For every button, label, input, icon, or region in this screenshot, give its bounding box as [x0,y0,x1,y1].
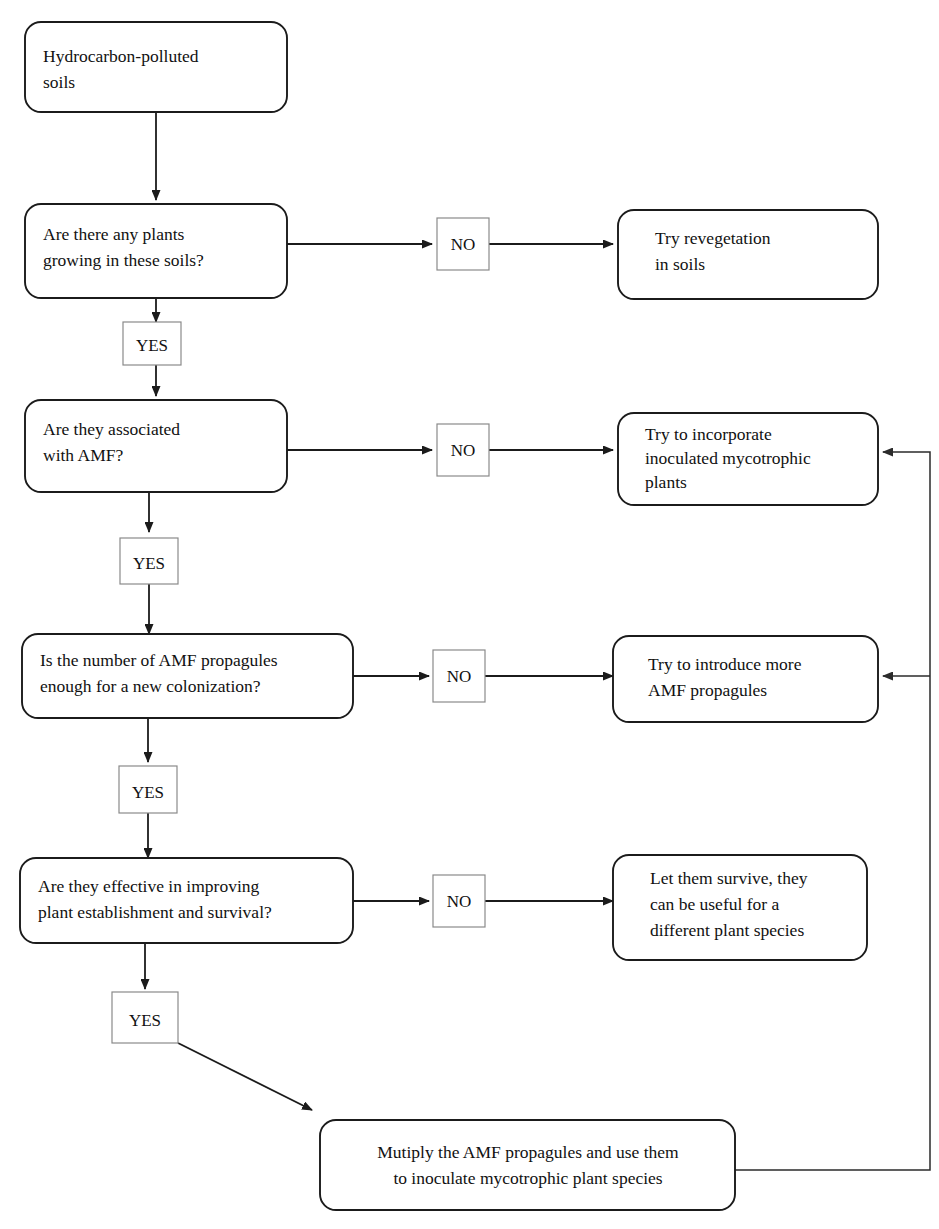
node-q4-line1: Are they effective in improving [38,876,260,896]
no2-label: NO [451,441,476,460]
node-start-shape[interactable] [25,22,287,112]
node-q2-line1: Are they associated [43,419,180,439]
edge-label-no-3: NO [433,650,485,702]
no3-label: NO [447,667,472,686]
node-a2-line3: plants [645,472,687,492]
node-action-incorporate-mycotrophic-plants[interactable]: Try to incorporate inoculated mycotrophi… [618,413,878,505]
flowchart-svg: Hydrocarbon-polluted soils Are there any… [0,0,939,1229]
node-a4-line3: different plant species [650,920,804,940]
no1-label: NO [451,235,476,254]
node-a2-line2: inoculated mycotrophic [645,448,811,468]
yes3-label: YES [132,783,164,802]
node-q3-line1: Is the number of AMF propagules [40,650,278,670]
node-question-effective-improving[interactable]: Are they effective in improving plant es… [20,858,353,943]
node-q4-shape[interactable] [20,858,353,943]
yes1-label: YES [136,336,168,355]
node-start-line1: Hydrocarbon-polluted [43,46,199,66]
node-a3-shape[interactable] [613,636,878,722]
node-q1-line1: Are there any plants [43,224,185,244]
node-a3-line2: AMF propagules [648,680,767,700]
node-a1-line2: in soils [655,254,705,274]
node-a3-line1: Try to introduce more [648,654,802,674]
yes2-label: YES [133,554,165,573]
node-action-try-revegetation[interactable]: Try revegetation in soils [618,210,878,299]
flowchart-canvas: Hydrocarbon-polluted soils Are there any… [0,0,939,1229]
node-q1-line2: growing in these soils? [43,250,204,270]
yes4-label: YES [129,1011,161,1030]
edge-label-yes-3: YES [119,766,177,813]
node-q3-line2: enough for a new colonization? [40,676,261,696]
node-a4-line1: Let them survive, they [650,868,808,888]
node-final-multiply-propagules[interactable]: Mutiply the AMF propagules and use them … [320,1120,735,1210]
node-final-line2: to inoculate mycotrophic plant species [393,1168,662,1188]
node-a4-line2: can be useful for a [650,894,779,914]
node-a1-line1: Try revegetation [655,228,771,248]
edge-label-yes-2: YES [120,538,178,584]
node-question-associated-amf[interactable]: Are they associated with AMF? [25,400,287,492]
node-action-let-them-survive[interactable]: Let them survive, they can be useful for… [613,855,867,960]
node-question-propagule-number[interactable]: Is the number of AMF propagules enough f… [22,634,353,718]
no4-label: NO [447,892,472,911]
node-action-introduce-more-propagules[interactable]: Try to introduce more AMF propagules [613,636,878,722]
node-q2-line2: with AMF? [43,445,123,465]
node-final-shape[interactable] [320,1120,735,1210]
node-a2-line1: Try to incorporate [645,424,772,444]
node-final-line1: Mutiply the AMF propagules and use them [377,1142,679,1162]
node-start-line2: soils [43,72,75,92]
edge-label-no-4: NO [433,875,485,927]
edge-label-yes-1: YES [123,322,181,365]
node-start[interactable]: Hydrocarbon-polluted soils [25,22,287,112]
edge-label-no-2: NO [437,424,489,476]
edge-label-yes-4: YES [112,992,178,1043]
node-q4-line2: plant establishment and survival? [38,902,272,922]
node-question-plants-growing[interactable]: Are there any plants growing in these so… [25,204,287,298]
edge-label-no-1: NO [437,218,489,270]
edge-yes4-to-final [178,1043,312,1110]
edge-rail-to-a2 [883,452,930,676]
